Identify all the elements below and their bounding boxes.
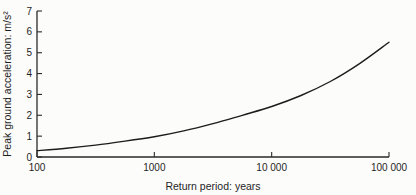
y-tick-label: 1 (26, 131, 32, 142)
x-tick-label: 10 000 (256, 162, 287, 173)
y-tick-label: 3 (26, 89, 32, 100)
x-axis-ticks: 100100010 000100 000 (29, 152, 408, 173)
y-axis-label: Peak ground acceleration: m/s² (1, 11, 13, 157)
x-tick-label: 1000 (143, 162, 166, 173)
seismic-hazard-line-chart: 01234567 100100010 000100 000 Return per… (0, 0, 416, 195)
x-tick-label: 100 000 (371, 162, 408, 173)
y-tick-label: 7 (26, 6, 32, 17)
y-tick-label: 0 (26, 152, 32, 163)
y-tick-label: 6 (26, 26, 32, 37)
data-curve (37, 42, 389, 150)
figure: 01234567 100100010 000100 000 Return per… (0, 0, 416, 195)
y-axis-ticks: 01234567 (26, 6, 42, 163)
y-tick-label: 4 (26, 68, 32, 79)
x-axis-label: Return period: years (165, 180, 260, 192)
x-tick-label: 100 (29, 162, 46, 173)
y-tick-label: 2 (26, 110, 32, 121)
y-tick-label: 5 (26, 47, 32, 58)
